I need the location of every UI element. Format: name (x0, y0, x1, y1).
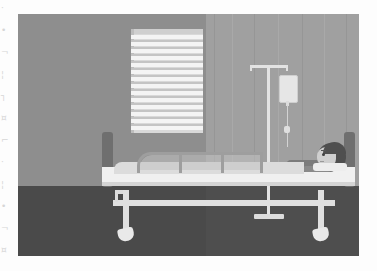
floor-right (206, 186, 359, 256)
blinds-headrail (131, 29, 203, 34)
margin-mark: • (1, 26, 6, 35)
margin-scan-artifacts: · • ¬ ¦ ┐ ¤ ⌐ · ¦ • ¬ ¤ (0, 0, 16, 271)
iv-bag (279, 75, 298, 103)
bed-rail-divider (179, 155, 182, 173)
blind-slat (131, 63, 203, 67)
bed-frame-bar (113, 200, 335, 206)
blind-slat (131, 112, 203, 116)
bed-side-rail (137, 152, 263, 173)
patient-eyebrow (321, 150, 326, 151)
bed-rail-divider (221, 155, 224, 173)
iv-hook-right-icon (286, 65, 288, 71)
hospital-room-illustration (18, 14, 359, 256)
blind-slat (131, 84, 203, 88)
iv-hook-left-icon (250, 65, 252, 71)
margin-mark: ¦ (1, 70, 4, 79)
margin-mark: · (1, 158, 4, 167)
blind-slat (131, 105, 203, 109)
margin-mark: · (1, 4, 4, 13)
pillow (313, 163, 347, 171)
blind-slat (131, 42, 203, 46)
margin-mark: ⌐ (1, 136, 9, 145)
blind-slat (131, 70, 203, 74)
margin-mark: • (1, 202, 6, 211)
margin-mark: ¦ (1, 180, 4, 189)
bed-frame-stub (115, 194, 118, 202)
margin-mark: ┐ (1, 92, 6, 101)
patient-eye (322, 153, 325, 156)
blind-slat (131, 91, 203, 95)
margin-mark: ¤ (1, 114, 7, 123)
bed-leg-left (123, 190, 129, 230)
blind-slat (131, 49, 203, 53)
mattress-shadow (102, 182, 355, 186)
iv-drip-chamber (284, 126, 290, 133)
bed-rail-divider (260, 155, 263, 173)
blind-slat (131, 77, 203, 81)
blind-slat (131, 56, 203, 60)
margin-mark: ¬ (1, 48, 9, 57)
window-with-venetian-blinds (131, 29, 203, 133)
iv-pole (267, 65, 270, 217)
margin-mark: ¤ (1, 246, 7, 255)
iv-stand-base (254, 214, 284, 219)
blind-slat (131, 35, 203, 39)
page-canvas: · • ¬ ¦ ┐ ¤ ⌐ · ¦ • ¬ ¤ (0, 0, 377, 271)
blind-slat (131, 119, 203, 123)
patient-mouth (320, 161, 324, 162)
blind-slat (131, 126, 203, 130)
blind-slat (131, 98, 203, 102)
bed-leg-right (318, 190, 324, 230)
margin-mark: ¬ (1, 224, 9, 233)
